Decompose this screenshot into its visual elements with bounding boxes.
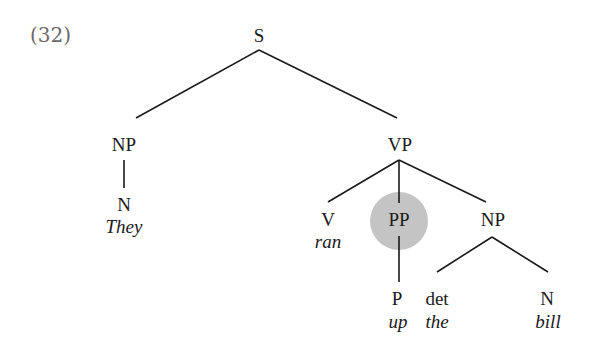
- node-vp: VP: [388, 134, 412, 155]
- word-up: up: [389, 311, 408, 332]
- node-np-subject: NP: [112, 134, 136, 155]
- node-np-object: NP: [481, 209, 505, 230]
- node-pp: PP: [388, 209, 409, 230]
- node-n-subject: N: [117, 194, 131, 215]
- word-bill: bill: [535, 311, 560, 332]
- syntax-tree: (32) S NP N They VP V ran PP NP P up det…: [0, 0, 596, 343]
- node-p: P: [392, 288, 403, 309]
- word-ran: ran: [315, 231, 341, 252]
- word-the: the: [425, 311, 448, 332]
- edge-s-vp: [259, 50, 397, 118]
- edge-np-n2: [492, 237, 548, 272]
- node-v: V: [321, 209, 335, 230]
- edge-s-np: [136, 50, 259, 118]
- node-s: S: [254, 25, 265, 46]
- edge-np-det: [437, 237, 492, 272]
- node-det: det: [425, 288, 449, 309]
- node-n-object: N: [540, 288, 554, 309]
- example-number: (32): [30, 23, 71, 47]
- word-they: They: [106, 216, 144, 237]
